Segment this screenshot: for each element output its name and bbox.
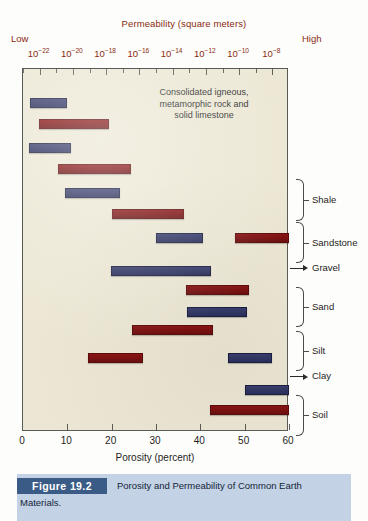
group-label-soil: Soil — [312, 409, 328, 420]
bar-shale-porosity — [29, 143, 71, 153]
bottom-tick-major — [245, 424, 246, 430]
figure-number-label: Figure 19.2 — [17, 478, 107, 494]
permeability-tick--14: 10−14 — [161, 48, 183, 59]
permeability-axis-title: Permeability (square meters) — [0, 18, 368, 29]
figure-19-2: Permeability (square meters) Low High 10… — [0, 0, 368, 521]
top-tick-minor — [189, 69, 190, 73]
porosity-axis-title: Porosity (percent) — [22, 452, 288, 463]
top-tick-major — [106, 69, 107, 75]
permeability-high-label: High — [302, 33, 322, 44]
consolidated-rock-annotation: Consolidated igneous, metamorphic rock a… — [129, 87, 279, 122]
top-tick-minor — [23, 69, 24, 73]
permeability-tick-labels: 10−2210−2010−1810−1610−1410−1210−1010−8 — [0, 48, 368, 62]
figure-caption-line-1: Porosity and Permeability of Common Eart… — [117, 479, 345, 492]
permeability-tick--10: 10−10 — [227, 48, 249, 59]
arrow-head-clay — [303, 374, 308, 380]
figure-number-tab: Figure 19.2 — [17, 478, 107, 494]
bar-shale-permeability — [58, 164, 131, 174]
group-label-clay: Clay — [312, 370, 331, 381]
brace-nub-sandstone — [303, 243, 309, 244]
group-label-sandstone: Sandstone — [312, 237, 357, 248]
top-tick-major — [73, 69, 74, 75]
porosity-tick-30: 30 — [149, 435, 160, 446]
bar-silt-permeability — [132, 325, 213, 335]
bar-consolidated-permeability — [39, 119, 109, 129]
bar-sand-permeability — [186, 285, 249, 295]
top-tick-major — [239, 69, 240, 75]
bar-soil-permeability — [210, 405, 289, 415]
top-tick-minor — [223, 69, 224, 73]
top-tick-major — [272, 69, 273, 75]
porosity-tick-10: 10 — [61, 435, 72, 446]
annotation-line-3: solid limestone — [129, 110, 279, 122]
bottom-tick-major — [200, 424, 201, 430]
brace-nub-silt — [303, 351, 309, 352]
figure-caption-line-2: Materials. — [20, 496, 340, 509]
bar-sandstone-permeability — [112, 209, 184, 219]
bar-gravel-porosity — [156, 233, 203, 243]
bottom-tick-major — [156, 424, 157, 430]
top-tick-major — [173, 69, 174, 75]
bar-consolidated-porosity — [30, 98, 67, 108]
top-tick-minor — [256, 69, 257, 73]
bar-soil-porosity — [245, 385, 289, 395]
permeability-low-label: Low — [11, 33, 28, 44]
porosity-tick-labels: 0102030405060 — [0, 435, 368, 449]
brace-nub-sand — [303, 307, 309, 308]
permeability-tick--16: 10−16 — [127, 48, 149, 59]
porosity-tick-60: 60 — [282, 435, 293, 446]
bar-clay-porosity — [228, 353, 272, 363]
top-tick-minor — [123, 69, 124, 73]
bottom-tick-major — [112, 424, 113, 430]
top-tick-major — [206, 69, 207, 75]
porosity-tick-20: 20 — [105, 435, 116, 446]
porosity-tick-0: 0 — [19, 435, 25, 446]
group-label-gravel: Gravel — [312, 262, 340, 273]
permeability-tick--20: 10−20 — [61, 48, 83, 59]
permeability-tick--12: 10−12 — [194, 48, 216, 59]
permeability-tick--8: 10−8 — [262, 48, 280, 59]
group-label-sand: Sand — [312, 301, 334, 312]
annotation-line-1: Consolidated igneous, — [129, 87, 279, 99]
permeability-tick--18: 10−18 — [94, 48, 116, 59]
top-tick-minor — [56, 69, 57, 73]
plot-area: Consolidated igneous, metamorphic rock a… — [22, 68, 288, 431]
permeability-tick--22: 10−22 — [28, 48, 50, 59]
top-tick-major — [40, 69, 41, 75]
bar-sandstone-porosity — [65, 188, 120, 198]
bar-sand-porosity — [111, 266, 211, 276]
top-tick-minor — [90, 69, 91, 73]
arrow-head-gravel — [303, 265, 308, 271]
bar-gravel-permeability — [235, 233, 289, 243]
brace-nub-soil — [303, 415, 309, 416]
bar-clay-permeability — [88, 353, 143, 363]
group-label-silt: Silt — [312, 345, 325, 356]
porosity-tick-50: 50 — [238, 435, 249, 446]
top-tick-minor — [156, 69, 157, 73]
group-label-shale: Shale — [312, 194, 336, 205]
top-tick-major — [139, 69, 140, 75]
bar-silt-porosity — [187, 307, 247, 317]
annotation-line-2: metamorphic rock and — [129, 99, 279, 111]
brace-nub-shale — [303, 200, 309, 201]
bottom-tick-major — [67, 424, 68, 430]
porosity-tick-40: 40 — [194, 435, 205, 446]
bottom-tick-major — [289, 424, 290, 430]
